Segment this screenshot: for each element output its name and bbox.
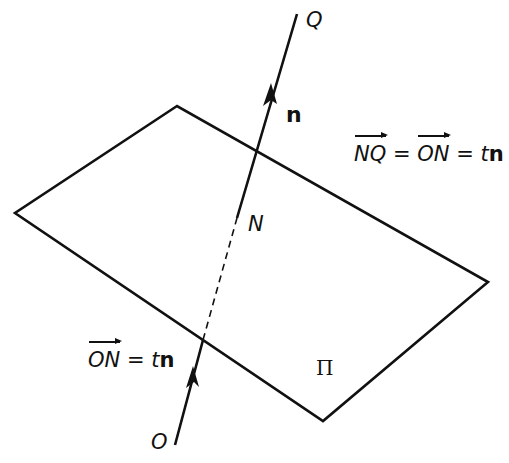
equation-nq-on-tn: NQ = ON = tn bbox=[354, 132, 504, 166]
equals-sign: = bbox=[127, 348, 145, 372]
vector-on: ON bbox=[417, 132, 449, 166]
diagram-canvas: Q N O n Π NQ = ON = tn ON = tn bbox=[0, 0, 509, 463]
line-lower-segment bbox=[175, 340, 203, 445]
vector-n: n bbox=[489, 142, 504, 166]
label-normal-vector-n: n bbox=[286, 102, 302, 127]
vector-nq: NQ bbox=[354, 132, 386, 166]
vector-on: ON bbox=[88, 338, 120, 372]
equation-on-tn: ON = tn bbox=[88, 338, 174, 372]
vector-n: n bbox=[159, 348, 174, 372]
scalar-t: t bbox=[480, 142, 488, 166]
label-point-o: O bbox=[151, 430, 168, 454]
equals-sign: = bbox=[456, 142, 474, 166]
line-hidden-dashed-segment bbox=[203, 218, 237, 340]
label-point-n: N bbox=[248, 212, 264, 236]
label-point-q: Q bbox=[306, 8, 323, 32]
equals-sign: = bbox=[393, 142, 411, 166]
label-plane-pi: Π bbox=[316, 356, 333, 380]
arrow-up-lower-icon bbox=[186, 366, 199, 388]
